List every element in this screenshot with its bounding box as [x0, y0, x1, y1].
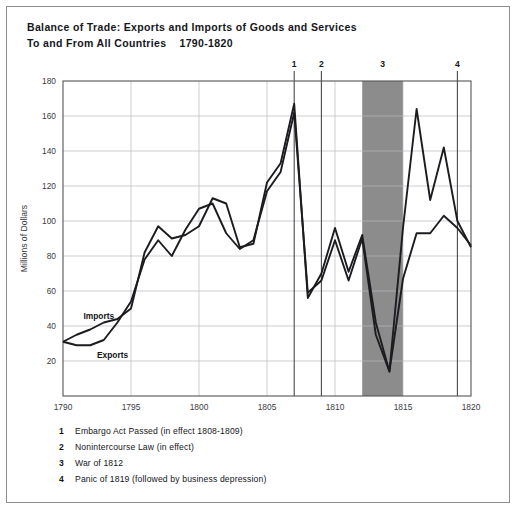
series-annotation-imports: Imports: [83, 311, 114, 321]
x-tick-label: 1815: [394, 402, 413, 412]
footnote-number: 2: [59, 442, 75, 452]
y-tick-label: 80: [47, 251, 57, 261]
series-annotation-exports: Exports: [97, 350, 129, 360]
event-marker-number-1: 1: [292, 59, 297, 69]
footnote-text: War of 1812: [75, 458, 123, 468]
footnote-text: Panic of 1819 (followed by business depr…: [75, 474, 266, 484]
y-tick-label: 100: [42, 216, 56, 226]
footnote-number: 4: [59, 474, 75, 484]
footnote-number: 1: [59, 426, 75, 436]
event-marker-number-4: 4: [455, 59, 460, 69]
footnote-number: 3: [59, 458, 75, 468]
y-tick-label: 140: [42, 146, 56, 156]
footnote-item: 3 War of 1812: [59, 458, 459, 474]
footnote-item: 4 Panic of 1819 (followed by business de…: [59, 474, 459, 490]
x-tick-label: 1810: [326, 402, 345, 412]
footnote-item: 1 Embargo Act Passed (in effect 1808-180…: [59, 426, 459, 442]
footnote-text: Nonintercourse Law (in effect): [75, 442, 194, 452]
x-tick-label: 1805: [258, 402, 277, 412]
event-marker-number-3: 3: [380, 59, 385, 69]
figure-frame: Balance of Trade: Exports and Imports of…: [6, 6, 510, 503]
y-tick-label: 60: [47, 286, 57, 296]
y-tick-label: 120: [42, 181, 56, 191]
x-tick-label: 1820: [462, 402, 481, 412]
y-tick-label: 40: [47, 321, 57, 331]
footnote-text: Embargo Act Passed (in effect 1808-1809): [75, 426, 243, 436]
event-marker-number-2: 2: [319, 59, 324, 69]
y-tick-label: 20: [47, 356, 57, 366]
y-axis-title: Millions of Dollars: [19, 205, 29, 272]
y-tick-label: 180: [42, 76, 56, 86]
footnote-item: 2 Nonintercourse Law (in effect): [59, 442, 459, 458]
x-tick-label: 1800: [190, 402, 209, 412]
x-tick-label: 1795: [122, 402, 141, 412]
footnote-list: 1 Embargo Act Passed (in effect 1808-180…: [59, 426, 459, 490]
x-tick-label: 1790: [54, 402, 73, 412]
y-tick-label: 160: [42, 111, 56, 121]
